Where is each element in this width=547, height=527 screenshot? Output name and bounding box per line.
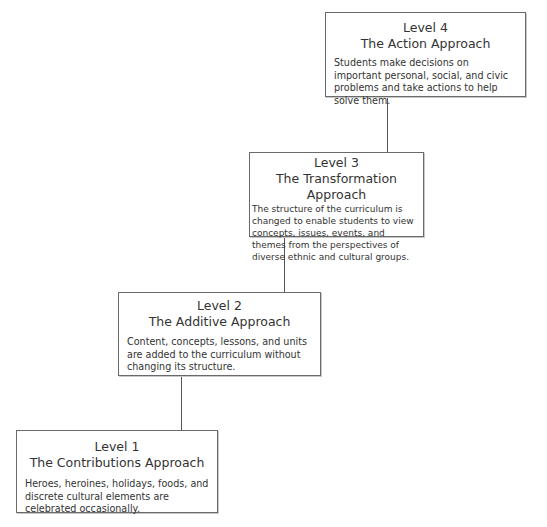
level-3-number: Level 3 xyxy=(250,155,423,171)
connector-level1-to-level2 xyxy=(181,375,182,430)
level-2-title: The Additive Approach xyxy=(119,314,320,330)
level-1-box: Level 1 The Contributions Approach Heroe… xyxy=(16,430,218,513)
level-3-description: The structure of the curriculum is chang… xyxy=(250,203,423,263)
level-4-description: Students make decisions on important per… xyxy=(326,57,525,107)
level-4-number: Level 4 xyxy=(326,20,525,36)
level-3-box: Level 3 The Transformation Approach The … xyxy=(249,152,424,237)
level-4-title: The Action Approach xyxy=(326,36,525,52)
level-2-number: Level 2 xyxy=(119,298,320,314)
level-2-box: Level 2 The Additive Approach Content, c… xyxy=(118,292,321,376)
level-2-description: Content, concepts, lessons, and units ar… xyxy=(119,336,320,374)
level-1-description: Heroes, heroines, holidays, foods, and d… xyxy=(17,478,217,516)
level-4-box: Level 4 The Action Approach Students mak… xyxy=(325,12,526,97)
level-1-number: Level 1 xyxy=(17,439,217,455)
level-3-title: The Transformation Approach xyxy=(250,171,423,203)
level-1-title: The Contributions Approach xyxy=(17,455,217,471)
